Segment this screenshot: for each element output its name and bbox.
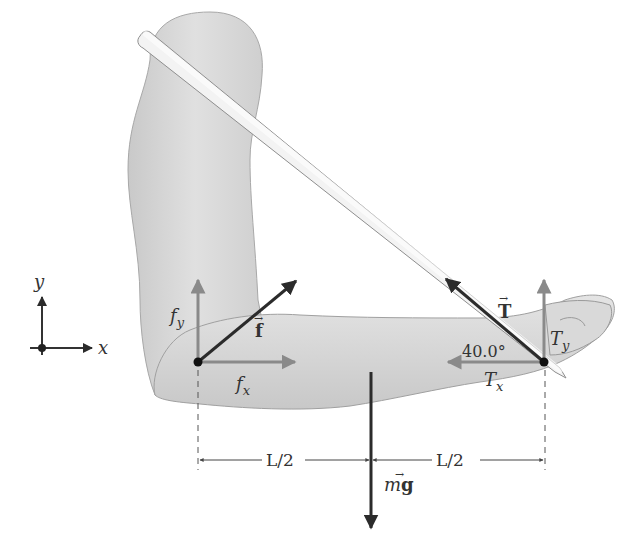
x-axis-label: x — [98, 337, 108, 358]
g-vector-arrow-icon: → — [395, 468, 404, 481]
arm-force-diagram: y x fy fx f → T → Ty Tx 40.0° mg → — [0, 0, 619, 541]
left-half-length-label: L/2 — [266, 450, 294, 470]
axes-indicator: y x — [30, 271, 108, 358]
right-half-length-label: L/2 — [436, 450, 464, 470]
y-axis-label: y — [33, 271, 45, 292]
angle-label: 40.0° — [462, 342, 506, 361]
T-vector-arrow-icon: → — [499, 292, 508, 305]
f-vector-arrow-icon: → — [254, 312, 263, 325]
